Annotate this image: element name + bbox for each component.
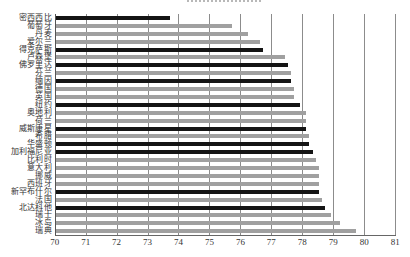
bar [56,198,322,202]
bar [56,182,319,186]
x-tick-label: 78 [292,237,312,247]
bar [56,174,319,178]
x-tick-label: 72 [107,237,127,247]
bar [56,158,316,162]
bar [56,16,171,20]
bar [56,213,331,217]
gridline [302,14,303,235]
bar [56,103,301,107]
bar [56,95,294,99]
bar [56,79,291,83]
category-label: 瑞典 [35,227,52,235]
x-tick-label: 70 [45,237,65,247]
bar [56,55,285,59]
x-tick-label: 79 [323,237,343,247]
bar [56,24,232,28]
bar [56,63,288,67]
x-tick-label: 81 [385,237,405,247]
bar [56,87,294,91]
x-tick-label: 74 [169,237,189,247]
x-tick-label: 73 [138,237,158,247]
bar [56,32,248,36]
bar [56,206,325,210]
gridline [271,14,272,235]
plot-area [55,14,397,236]
horizontal-bar-chart: 密西西比葡萄牙丹麦爱尔兰得克萨斯卢森堡佛罗里达芬兰缅因德国英国纽约奥地利荷兰威斯… [0,0,410,257]
bar [56,48,263,52]
bar [56,221,341,225]
bar [56,111,307,115]
bar [56,119,307,123]
x-tick-label: 75 [199,237,219,247]
x-tick-label: 80 [354,237,374,247]
bar [56,190,319,194]
bar [56,229,356,233]
bar [56,134,310,138]
gridline [395,14,396,235]
gridline [333,14,334,235]
x-tick-label: 76 [230,237,250,247]
x-tick-label: 71 [76,237,96,247]
bar [56,166,319,170]
bar [56,71,291,75]
gridline [364,14,365,235]
bar [56,150,313,154]
bar [56,127,307,131]
x-tick-label: 77 [261,237,281,247]
bar [56,142,310,146]
chart-title-clipped [187,0,263,2]
bar [56,40,260,44]
